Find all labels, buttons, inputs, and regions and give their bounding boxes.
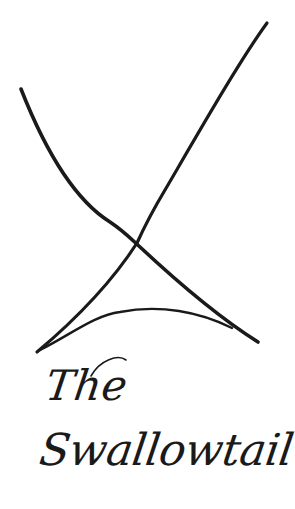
bottom-arc: [40, 309, 232, 350]
wordmark-the: The: [43, 362, 131, 410]
left-stroke: [21, 89, 258, 342]
swallowtail-cross-icon: [0, 0, 295, 360]
wordmark-swallowtail: Swallowtail: [36, 424, 295, 476]
